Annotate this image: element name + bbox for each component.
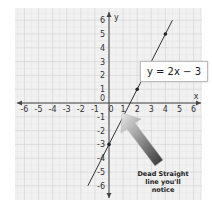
svg-text:-3: -3 — [63, 105, 71, 114]
annotation-line-2: line you'll — [130, 178, 196, 186]
annotation-line-3: notice — [130, 186, 196, 194]
svg-text:-6: -6 — [97, 182, 105, 191]
svg-text:3: 3 — [100, 58, 105, 67]
svg-text:1: 1 — [100, 85, 105, 94]
svg-text:-2: -2 — [77, 105, 85, 114]
svg-text:3: 3 — [149, 105, 154, 114]
svg-text:0: 0 — [108, 105, 113, 114]
svg-text:2: 2 — [135, 105, 140, 114]
svg-text:4: 4 — [100, 44, 105, 53]
svg-text:-2: -2 — [97, 127, 105, 136]
svg-text:5: 5 — [177, 105, 182, 114]
svg-text:6: 6 — [100, 16, 105, 25]
svg-text:-6: -6 — [20, 105, 28, 114]
svg-text:6: 6 — [191, 105, 196, 114]
svg-text:-1: -1 — [97, 113, 105, 122]
equation-label: y = 2x − 3 — [140, 61, 208, 82]
svg-text:-5: -5 — [35, 105, 43, 114]
svg-text:-4: -4 — [49, 105, 57, 114]
svg-text:2: 2 — [100, 71, 105, 80]
annotation-text: Dead Straight line you'll notice — [130, 170, 196, 194]
annotation-line-1: Dead Straight — [130, 170, 196, 178]
svg-text:-3: -3 — [97, 140, 105, 149]
svg-text:-5: -5 — [97, 168, 105, 177]
svg-text:5: 5 — [100, 30, 105, 39]
svg-text:x: x — [194, 92, 199, 101]
svg-text:4: 4 — [163, 105, 168, 114]
svg-text:y: y — [114, 13, 119, 22]
svg-text:0: 0 — [100, 94, 105, 103]
